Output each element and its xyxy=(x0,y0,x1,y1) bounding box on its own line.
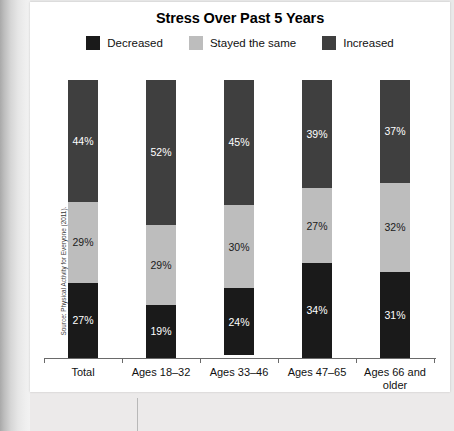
stacked-bar[interactable]: 37%32%31% xyxy=(380,80,410,358)
bar-segment[interactable]: 37% xyxy=(380,80,410,183)
bar-segment[interactable]: 32% xyxy=(380,183,410,272)
bar-slot: 44%29%27% xyxy=(44,80,122,358)
x-axis-label-line: older xyxy=(356,379,434,392)
bar-segment[interactable]: 44% xyxy=(68,80,98,202)
x-axis-tick xyxy=(122,358,123,363)
x-axis-tick xyxy=(200,358,201,363)
bar-segment-label: 32% xyxy=(384,222,405,233)
legend-item: Stayed the same xyxy=(189,36,296,50)
legend-label: Stayed the same xyxy=(210,37,296,49)
legend-swatch-icon xyxy=(322,36,336,50)
bar-segment[interactable]: 29% xyxy=(68,202,98,283)
x-axis-label-line: Ages 33–46 xyxy=(200,366,278,379)
page-vertical-rule xyxy=(137,398,138,431)
bar-segment-label: 44% xyxy=(72,136,93,147)
x-axis-label: Ages 47–65 xyxy=(278,366,356,379)
x-axis-label-line: Ages 66 and xyxy=(356,366,434,379)
bar-segment-label: 24% xyxy=(228,317,249,328)
bar-segment-label: 27% xyxy=(72,315,93,326)
x-axis-tick xyxy=(356,358,357,363)
x-axis-label: Ages 33–46 xyxy=(200,366,278,379)
page-canvas: Stress Over Past 5 Years DecreasedStayed… xyxy=(0,0,454,431)
x-axis-tick xyxy=(434,358,435,363)
bar-segment-label: 29% xyxy=(150,260,171,271)
bar-segment[interactable]: 27% xyxy=(302,188,332,263)
page-binding-shadow xyxy=(0,0,30,431)
bar-segment[interactable]: 27% xyxy=(68,283,98,358)
legend-item: Decreased xyxy=(86,36,163,50)
x-axis-label-line: Total xyxy=(44,366,122,379)
bar-segment[interactable]: 45% xyxy=(224,80,254,205)
x-axis-label-line: Ages 18–32 xyxy=(122,366,200,379)
x-axis-category-labels: TotalAges 18–32Ages 33–46Ages 47–65Ages … xyxy=(44,366,436,396)
bar-segment-label: 37% xyxy=(384,126,405,137)
chart-title: Stress Over Past 5 Years xyxy=(30,10,450,26)
chart-legend: DecreasedStayed the sameIncreased xyxy=(30,36,450,50)
x-axis-label-line: Ages 47–65 xyxy=(278,366,356,379)
stacked-bar[interactable]: 39%27%34% xyxy=(302,80,332,358)
legend-swatch-icon xyxy=(189,36,203,50)
bar-segment-label: 29% xyxy=(72,237,93,248)
x-axis-tick xyxy=(278,358,279,363)
bar-segment[interactable]: 31% xyxy=(380,272,410,358)
bar-segment[interactable]: 52% xyxy=(146,80,176,225)
bar-segment[interactable]: 34% xyxy=(302,263,332,358)
bar-segment[interactable]: 29% xyxy=(146,225,176,306)
bar-segment-label: 30% xyxy=(228,242,249,253)
bar-segment-label: 31% xyxy=(384,310,405,321)
stacked-bar[interactable]: 52%29%19% xyxy=(146,80,176,358)
bar-slot: 52%29%19% xyxy=(122,80,200,358)
chart-panel: Stress Over Past 5 Years DecreasedStayed… xyxy=(30,2,450,392)
bar-segment[interactable]: 30% xyxy=(224,205,254,288)
bar-segment-label: 34% xyxy=(306,305,327,316)
x-axis-label: Ages 66 andolder xyxy=(356,366,434,392)
source-note: Source: Physical Activity for Everyone (… xyxy=(60,186,67,336)
x-axis-label: Total xyxy=(44,366,122,379)
bar-segment[interactable]: 24% xyxy=(224,288,254,355)
bar-segment-label: 45% xyxy=(228,137,249,148)
legend-item: Increased xyxy=(322,36,394,50)
stacked-bar[interactable]: 44%29%27% xyxy=(68,80,98,358)
stacked-bar[interactable]: 45%30%24% xyxy=(224,80,254,358)
bar-segment[interactable]: 19% xyxy=(146,305,176,358)
legend-label: Increased xyxy=(343,37,394,49)
legend-swatch-icon xyxy=(86,36,100,50)
x-axis-label: Ages 18–32 xyxy=(122,366,200,379)
plot-area: 44%29%27%52%29%19%45%30%24%39%27%34%37%3… xyxy=(44,80,436,358)
page-lower-margin xyxy=(30,390,454,431)
bar-slot: 39%27%34% xyxy=(278,80,356,358)
bar-segment-label: 52% xyxy=(150,147,171,158)
bar-slot: 45%30%24% xyxy=(200,80,278,358)
bar-segment-label: 27% xyxy=(306,221,327,232)
bar-segment-label: 19% xyxy=(150,326,171,337)
x-axis-line xyxy=(44,358,436,359)
bar-segment-label: 39% xyxy=(306,129,327,140)
legend-label: Decreased xyxy=(107,37,163,49)
bar-segment[interactable]: 39% xyxy=(302,80,332,188)
bar-slot: 37%32%31% xyxy=(356,80,434,358)
x-axis-tick xyxy=(44,358,45,363)
